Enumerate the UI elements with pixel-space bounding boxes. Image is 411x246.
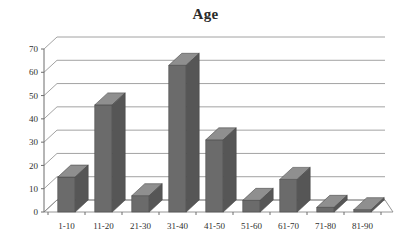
gridline-connector (44, 84, 57, 96)
bar-front-face (169, 65, 186, 212)
y-axis-tick-labels: 010203040506070 (29, 44, 39, 217)
bar-side-face (223, 128, 236, 212)
x-axis-category-label: 1-10 (58, 221, 75, 231)
chart-container: Age 010203040506070 1-1011-2021-3031-404… (0, 0, 411, 246)
gridline-connector (44, 37, 57, 49)
gridline-connector (44, 177, 57, 189)
x-axis-category-label: 31-40 (167, 221, 188, 231)
x-axis-category-label: 61-70 (278, 221, 299, 231)
bar-11-20 (95, 93, 125, 212)
bar-front-face (243, 200, 260, 212)
x-axis-category-label: 21-30 (130, 221, 151, 231)
y-axis-tick-label: 40 (29, 114, 39, 124)
bar-front-face (206, 140, 223, 212)
bar-front-face (354, 210, 371, 212)
y-axis-tick-label: 0 (34, 207, 39, 217)
bar-front-face (132, 196, 149, 212)
gridline-connector (44, 60, 57, 72)
gridline-connector (44, 153, 57, 165)
bar-front-face (58, 177, 75, 212)
y-axis-tick-label: 20 (29, 161, 39, 171)
bar-41-50 (206, 128, 236, 212)
bars-group (58, 53, 384, 212)
x-axis-category-label: 51-60 (241, 221, 262, 231)
bar-61-70 (280, 167, 310, 212)
bar-31-40 (169, 53, 199, 212)
bar-51-60 (243, 188, 273, 212)
x-axis-category-label: 11-20 (93, 221, 114, 231)
bar-21-30 (132, 184, 162, 212)
gridline-connector (44, 130, 57, 142)
bar-chart-plot: 010203040506070 1-1011-2021-3031-4041-50… (0, 0, 411, 246)
bar-front-face (317, 207, 334, 212)
bar-front-face (95, 105, 112, 212)
x-axis-category-labels: 1-1011-2021-3031-4041-5051-6061-7071-808… (58, 221, 373, 231)
bar-side-face (186, 53, 199, 212)
y-axis-tick-label: 50 (29, 91, 39, 101)
x-axis-category-label: 81-90 (352, 221, 373, 231)
y-axis-tick-label: 60 (29, 67, 39, 77)
x-axis-category-label: 41-50 (204, 221, 225, 231)
y-axis-tick-label: 30 (29, 137, 39, 147)
gridline-connector (44, 107, 57, 119)
y-axis-tick-label: 70 (29, 44, 39, 54)
bar-71-80 (317, 195, 347, 212)
y-axis-tick-label: 10 (29, 184, 39, 194)
bar-1-10 (58, 165, 88, 212)
bar-side-face (112, 93, 125, 212)
x-axis-category-label: 71-80 (315, 221, 336, 231)
bar-front-face (280, 179, 297, 212)
